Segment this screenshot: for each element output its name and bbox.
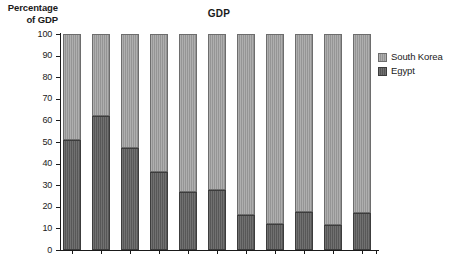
bar-segment-south-korea[interactable] bbox=[237, 34, 255, 215]
y-axis-tick bbox=[56, 34, 60, 35]
plot-area: 0102030405060708090100196019651970197519… bbox=[60, 34, 378, 250]
bar-segment-egypt[interactable] bbox=[63, 140, 81, 250]
bar-column[interactable] bbox=[150, 34, 168, 250]
x-axis-tick bbox=[333, 250, 334, 254]
bar-column[interactable] bbox=[353, 34, 371, 250]
legend-swatch-icon bbox=[378, 53, 387, 62]
y-axis-title: Percentage of GDP bbox=[2, 2, 58, 25]
bar-segment-egypt[interactable] bbox=[92, 116, 110, 250]
x-axis-tick bbox=[275, 250, 276, 254]
y-axis-tick bbox=[56, 207, 60, 208]
x-axis-tick bbox=[362, 250, 363, 254]
bar-column[interactable] bbox=[237, 34, 255, 250]
bar-segment-south-korea[interactable] bbox=[353, 34, 371, 213]
legend-item-label: South Korea bbox=[391, 52, 443, 62]
x-axis-line bbox=[60, 250, 379, 251]
x-axis-tick bbox=[246, 250, 247, 254]
y-axis-tick-label: 70 bbox=[26, 94, 52, 103]
bar-column[interactable] bbox=[324, 34, 342, 250]
legend-item[interactable]: Egypt bbox=[378, 64, 449, 78]
bar-segment-south-korea[interactable] bbox=[266, 34, 284, 224]
x-axis-tick bbox=[72, 250, 73, 254]
legend-item-label: Egypt bbox=[391, 66, 415, 76]
bar-segment-egypt[interactable] bbox=[353, 213, 371, 250]
bar-segment-south-korea[interactable] bbox=[92, 34, 110, 116]
y-axis-tick bbox=[56, 250, 60, 251]
y-axis-tick-label: 20 bbox=[26, 202, 52, 211]
y-axis-tick bbox=[56, 185, 60, 186]
x-axis-tick bbox=[217, 250, 218, 254]
y-axis-tick-label: 100 bbox=[26, 30, 52, 39]
chart-legend: South KoreaEgypt bbox=[378, 50, 449, 78]
bar-segment-egypt[interactable] bbox=[324, 225, 342, 250]
y-axis-title-line2: of GDP bbox=[2, 14, 58, 26]
y-axis-tick-label: 0 bbox=[26, 246, 52, 255]
bar-column[interactable] bbox=[179, 34, 197, 250]
x-axis-tick bbox=[130, 250, 131, 254]
bar-column[interactable] bbox=[63, 34, 81, 250]
y-axis-tick-label: 60 bbox=[26, 116, 52, 125]
y-axis-tick bbox=[56, 228, 60, 229]
y-axis-tick bbox=[56, 99, 60, 100]
x-axis-tick bbox=[304, 250, 305, 254]
y-axis-tick bbox=[56, 164, 60, 165]
x-axis-tick bbox=[159, 250, 160, 254]
bar-column[interactable] bbox=[266, 34, 284, 250]
bar-segment-egypt[interactable] bbox=[237, 215, 255, 250]
bar-column[interactable] bbox=[92, 34, 110, 250]
chart-title: GDP bbox=[60, 8, 378, 19]
bar-segment-egypt[interactable] bbox=[179, 192, 197, 250]
y-axis-tick bbox=[56, 120, 60, 121]
y-axis-tick bbox=[56, 77, 60, 78]
y-axis-tick-label: 80 bbox=[26, 73, 52, 82]
y-axis-title-line1: Percentage bbox=[2, 2, 58, 14]
bar-segment-egypt[interactable] bbox=[208, 190, 226, 250]
bar-segment-south-korea[interactable] bbox=[121, 34, 139, 148]
bar-segment-south-korea[interactable] bbox=[179, 34, 197, 192]
legend-item[interactable]: South Korea bbox=[378, 50, 449, 64]
y-axis-tick bbox=[56, 56, 60, 57]
y-axis-tick bbox=[56, 142, 60, 143]
y-axis-tick-label: 40 bbox=[26, 159, 52, 168]
bar-segment-south-korea[interactable] bbox=[295, 34, 313, 212]
bar-segment-egypt[interactable] bbox=[150, 172, 168, 250]
legend-swatch-icon bbox=[378, 67, 387, 76]
bar-segment-egypt[interactable] bbox=[121, 148, 139, 250]
bar-segment-egypt[interactable] bbox=[295, 212, 313, 250]
x-axis-end-tick bbox=[376, 250, 377, 254]
bar-segment-south-korea[interactable] bbox=[63, 34, 81, 140]
bar-segment-south-korea[interactable] bbox=[324, 34, 342, 225]
bar-segment-south-korea[interactable] bbox=[150, 34, 168, 172]
y-axis-tick-label: 10 bbox=[26, 224, 52, 233]
y-axis-tick-label: 90 bbox=[26, 51, 52, 60]
bar-column[interactable] bbox=[295, 34, 313, 250]
bar-segment-south-korea[interactable] bbox=[208, 34, 226, 190]
y-axis-tick-label: 50 bbox=[26, 138, 52, 147]
y-axis-tick-label: 30 bbox=[26, 181, 52, 190]
bar-column[interactable] bbox=[121, 34, 139, 250]
x-axis-tick bbox=[188, 250, 189, 254]
bar-segment-egypt[interactable] bbox=[266, 224, 284, 250]
bar-column[interactable] bbox=[208, 34, 226, 250]
x-axis-tick bbox=[101, 250, 102, 254]
